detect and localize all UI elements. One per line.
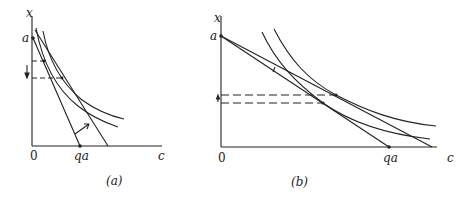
panel-b xyxy=(217,16,438,147)
panel-a-indifference-curve-outer xyxy=(43,31,124,119)
panel-b-x-axis-label: c xyxy=(447,151,454,165)
panel-b-origin-label: 0 xyxy=(218,151,226,165)
panel-b-budget-line-inner xyxy=(221,36,389,147)
panel-a-x-axis-label: c xyxy=(158,149,165,163)
panel-b-up-arrowhead-icon xyxy=(217,95,220,99)
panel-b-budget-line-outer xyxy=(221,36,432,147)
panel-a-down-arrowhead-icon xyxy=(25,73,29,78)
diagram-canvas: x a 0 qa c (a) x a 0 qa c (b) xyxy=(0,0,467,198)
panel-a-shift-arrow xyxy=(75,124,89,134)
panel-b-x-intercept-label: qa xyxy=(383,151,398,165)
panel-a-origin-label: 0 xyxy=(30,149,38,163)
panel-a-y-axis-label: x xyxy=(26,6,33,20)
panel-a-caption: (a) xyxy=(106,174,123,188)
panel-b-indifference-curve-outer xyxy=(274,29,436,126)
panel-b-y-intercept-label: a xyxy=(210,29,217,43)
panel-b-y-axis-label: x xyxy=(214,11,221,25)
panel-a-budget-line-outer xyxy=(35,30,108,146)
panel-b-indifference-curve-inner xyxy=(262,32,430,139)
panel-a xyxy=(25,16,162,146)
panel-a-y-intercept-label: a xyxy=(22,31,29,45)
panel-a-x-intercept-label: qa xyxy=(74,149,89,163)
panel-b-caption: (b) xyxy=(291,175,308,189)
